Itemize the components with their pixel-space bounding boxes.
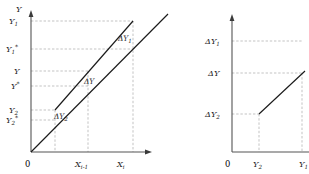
left-tick-Y2star: Y2* bbox=[6, 114, 18, 126]
left-tick-Ybar: Y bbox=[14, 66, 21, 76]
right-tick-dY: ΔY bbox=[207, 68, 221, 78]
right-horizontal-guides bbox=[232, 41, 302, 114]
left-label-delta-Y: ΔY bbox=[83, 77, 95, 86]
left-y-axis-arrow bbox=[29, 10, 34, 17]
right-tick-Y1: Y1 bbox=[299, 159, 308, 170]
left-plot: Y Y1 Y1* Y Y* Y2 Y2* 0 Xi-1 Xi ΔY1 ΔY ΔY… bbox=[6, 4, 168, 170]
left-lower-line bbox=[31, 14, 168, 152]
left-tick-Xi: Xi bbox=[116, 159, 125, 170]
left-tick-Xi-1: Xi-1 bbox=[74, 159, 88, 170]
right-plot: ΔY1 ΔY ΔY2 0 Y2 Y1 bbox=[204, 14, 309, 170]
diagram-svg: Y Y1 Y1* Y Y* Y2 Y2* 0 Xi-1 Xi ΔY1 ΔY ΔY… bbox=[0, 0, 309, 174]
left-label-delta-Y2: ΔY2 bbox=[53, 112, 68, 122]
right-vertical-guides bbox=[259, 73, 302, 152]
left-tick-Y1star: Y1* bbox=[6, 43, 18, 55]
left-origin-label: 0 bbox=[25, 159, 30, 169]
left-tick-Y1: Y1 bbox=[9, 16, 18, 27]
right-tick-dY2: ΔY2 bbox=[204, 109, 220, 120]
left-tick-Ystar: Y* bbox=[11, 80, 20, 91]
left-label-delta-Y1: ΔY1 bbox=[117, 34, 132, 44]
right-y-axis-arrow bbox=[230, 14, 235, 21]
figure-container: Y Y1 Y1* Y Y* Y2 Y2* 0 Xi-1 Xi ΔY1 ΔY ΔY… bbox=[0, 0, 309, 174]
right-origin-label: 0 bbox=[225, 159, 230, 169]
left-x-axis-arrow bbox=[145, 150, 152, 155]
right-delta-line bbox=[259, 71, 305, 114]
right-tick-Y2: Y2 bbox=[253, 159, 262, 170]
right-tick-dY1: ΔY1 bbox=[204, 36, 220, 47]
left-y-axis-title: Y bbox=[16, 4, 23, 14]
